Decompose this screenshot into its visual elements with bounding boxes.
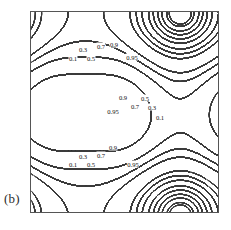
contour-line-aux [193, 12, 219, 47]
contour-line-aux [218, 12, 219, 19]
contour-line-0p9 [104, 183, 127, 213]
contour-line-aux [194, 38, 219, 56]
contour-line-0p95 [173, 72, 219, 99]
contour-line-0p95 [149, 133, 219, 157]
contour-line-0p9 [104, 164, 156, 213]
contour-line-aux [169, 12, 191, 24]
contour-line-aux [218, 136, 219, 138]
contour-line-0p9 [104, 194, 115, 213]
contour-line-0p9 [52, 189, 68, 213]
contour-line-aux [43, 74, 131, 82]
contour-line-aux [31, 74, 151, 148]
contour-line-aux [163, 62, 219, 81]
contour-line-aux [201, 12, 219, 42]
contour-line-0p95 [31, 57, 200, 99]
contour-line-0p9 [39, 179, 68, 213]
contour-line-0p9 [44, 183, 68, 213]
contour-line-aux [209, 98, 219, 139]
contour-line-aux [187, 181, 218, 213]
contour-line-0p9 [57, 12, 68, 34]
contour-line-0p95 [158, 133, 219, 157]
contour-line-0p95 [70, 57, 219, 99]
contour-line-0p7 [210, 29, 219, 41]
contour-line-0p1 [167, 204, 175, 213]
contour-line-aux [182, 149, 219, 166]
contour-line-0p9 [174, 55, 219, 73]
contour-line-0p9 [33, 12, 68, 54]
contour-line-aux [109, 75, 131, 82]
contour-line-aux [47, 149, 219, 186]
contour-line-aux [128, 55, 219, 82]
contour-line-aux [169, 212, 170, 213]
contour-line-0p3 [187, 195, 203, 213]
contour-line-0p9 [104, 197, 112, 213]
contour-line-aux [170, 12, 192, 24]
contour-line-0p9 [153, 55, 219, 73]
contour-line-0p9 [104, 187, 123, 214]
contour-line-aux [209, 103, 219, 139]
contour-line-aux [31, 74, 151, 149]
contour-line-aux [163, 12, 199, 31]
contour-line-0p7 [178, 42, 209, 54]
contour-line-aux [200, 198, 207, 213]
contour-line-aux [130, 197, 136, 213]
contour-line-aux [94, 149, 219, 186]
contour-line-0p9 [40, 180, 68, 213]
contour-line-aux [31, 74, 151, 151]
contour-line-0p5 [149, 12, 195, 43]
contour-line-aux [166, 12, 218, 49]
contour-line-aux [51, 74, 131, 82]
contour-label: 0.9 [108, 144, 117, 151]
contour-line-aux [192, 151, 219, 166]
contour-line-0p9 [31, 17, 68, 55]
contour-line-aux [202, 201, 207, 213]
contour-line-0p95 [31, 58, 66, 72]
contour-line-aux [31, 74, 151, 151]
contour-line-aux [106, 75, 131, 82]
contour-line-aux [31, 74, 151, 119]
contour-line-0p95 [136, 133, 219, 160]
contour-line-aux [209, 116, 219, 139]
contour-line-aux [164, 12, 219, 49]
contour-line-aux [124, 53, 219, 82]
contour-line-aux [194, 194, 207, 213]
contour-line-aux [170, 12, 191, 24]
contour-line-0p95 [170, 133, 219, 157]
contour-line-0p95 [166, 133, 219, 157]
contour-line-aux [31, 74, 151, 151]
contour-line-aux [182, 190, 207, 213]
contour-line-aux [203, 12, 219, 41]
contour-line-aux [193, 38, 219, 56]
contour-line-0p3 [158, 12, 192, 35]
contour-line-0p95 [157, 72, 219, 99]
contour-line-aux [142, 198, 148, 213]
contour-line-0p5 [187, 187, 212, 213]
contour-line-0p9 [34, 12, 68, 53]
contour-label: 0.95 [107, 108, 119, 115]
contour-line-0p7 [211, 189, 219, 200]
contour-line-aux [49, 149, 219, 186]
contour-line-aux [53, 74, 131, 82]
contour-line-0p95 [160, 72, 219, 99]
contour-label: 0.7 [130, 103, 139, 110]
contour-line-0p9 [104, 18, 145, 58]
contour-line-0p9 [46, 184, 68, 213]
contour-line-aux [130, 179, 155, 213]
contour-line-0p95 [103, 133, 219, 169]
contour-line-0p3 [158, 12, 201, 35]
contour-line-0p9 [180, 55, 219, 73]
contour-line-aux [195, 38, 219, 56]
contour-line-aux [165, 12, 219, 49]
contour-line-aux [129, 55, 219, 81]
contour-line-0p3 [158, 200, 165, 213]
contour-line-0p95 [41, 57, 219, 99]
contour-line-aux [31, 155, 161, 187]
contour-line-aux [31, 74, 151, 151]
contour-line-0p95 [139, 133, 219, 158]
contour-line-aux [87, 74, 131, 82]
contour-line-0p95 [170, 72, 219, 99]
contour-line-aux [211, 196, 218, 213]
contour-line-aux [186, 62, 219, 80]
contour-line-0p5 [160, 186, 212, 213]
contour-line-0p9 [160, 157, 219, 173]
